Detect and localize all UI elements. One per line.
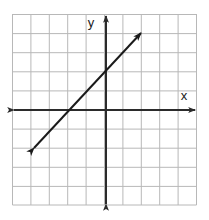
coordinate-plane-svg: y x [0, 0, 209, 220]
y-axis-label: y [88, 15, 95, 30]
coordinate-graph-figure: y x [0, 0, 209, 220]
x-axis-label: x [181, 88, 188, 103]
